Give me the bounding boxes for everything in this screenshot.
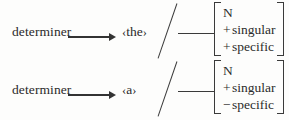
rule-left-hand-side: determiner <box>12 24 71 40</box>
arrow-shaft <box>68 94 113 95</box>
feature-list: N +singular −specific <box>221 60 277 114</box>
matrix-bracket-left-icon <box>214 2 221 56</box>
feature-matrix: N +singular −specific <box>214 60 284 114</box>
environment-slash-icon <box>156 4 180 58</box>
rewrite-arrow-icon <box>68 33 116 42</box>
feature-item: +singular <box>223 79 276 96</box>
rewrite-rule-figure: determiner ‹the› N +singular +specific d… <box>0 0 289 120</box>
arrow-head <box>109 33 116 41</box>
feature-name: specific <box>232 97 274 112</box>
context-blank-line <box>178 91 214 92</box>
feature-matrix: N +singular +specific <box>214 2 284 56</box>
matrix-bracket-right-icon <box>277 60 284 114</box>
matrix-bracket-right-icon <box>277 2 284 56</box>
feature-category: N <box>223 4 276 21</box>
feature-list: N +singular +specific <box>221 2 277 56</box>
rule-terminal: ‹the› <box>122 24 147 40</box>
terminal-text: the <box>126 24 143 39</box>
rule-terminal: ‹a› <box>122 82 136 98</box>
feature-sign: + <box>223 38 232 55</box>
environment-slash-icon <box>156 62 180 116</box>
category-label: N <box>223 63 233 78</box>
feature-sign: + <box>223 79 232 96</box>
rewrite-rule-row: determiner ‹the› N +singular +specific <box>0 0 289 60</box>
feature-sign: + <box>223 21 232 38</box>
feature-name: singular <box>232 80 276 95</box>
arrow-shaft <box>68 36 113 37</box>
category-label: N <box>223 5 233 20</box>
rewrite-arrow-icon <box>68 91 116 100</box>
angle-bracket-close: › <box>143 25 147 39</box>
feature-item: −specific <box>223 96 276 113</box>
angle-bracket-close: › <box>132 83 136 97</box>
context-blank-line <box>178 33 214 34</box>
feature-name: specific <box>232 39 274 54</box>
feature-category: N <box>223 62 276 79</box>
feature-item: +singular <box>223 21 276 38</box>
matrix-bracket-left-icon <box>214 60 221 114</box>
arrow-head <box>109 91 116 99</box>
feature-sign: − <box>223 96 232 113</box>
rewrite-rule-row: determiner ‹a› N +singular −specific <box>0 58 289 118</box>
feature-item: +specific <box>223 38 276 55</box>
rule-left-hand-side: determiner <box>12 82 71 98</box>
feature-name: singular <box>232 22 276 37</box>
